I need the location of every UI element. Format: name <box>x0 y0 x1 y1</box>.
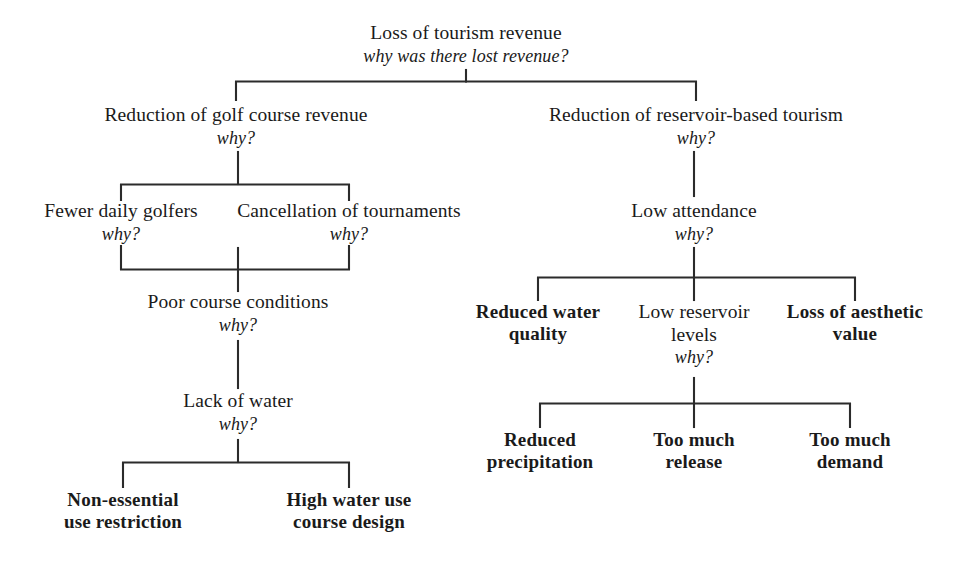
node-high-water-use-course-design: High water use course design <box>242 489 457 533</box>
connector-top-bracket <box>236 82 696 101</box>
node-high-water-use-course-design-line1: High water use <box>242 489 457 511</box>
node-loss-of-aesthetic-value-line2: value <box>760 323 950 345</box>
node-low-reservoir-levels-why: why? <box>609 347 779 368</box>
node-golf-revenue: Reduction of golf course revenue why? <box>36 104 436 148</box>
node-root: Loss of tourism revenue why was there lo… <box>276 22 656 66</box>
node-fewer-golfers-label: Fewer daily golfers <box>11 200 231 223</box>
node-cancelled-tournaments-why: why? <box>199 224 499 245</box>
node-reduced-water-quality-line2: quality <box>443 323 633 345</box>
node-fewer-golfers-why: why? <box>11 224 231 245</box>
node-too-much-release-line2: release <box>609 451 779 473</box>
node-lack-of-water-label: Lack of water <box>118 390 358 413</box>
node-reservoir-tourism: Reduction of reservoir-based tourism why… <box>476 104 916 148</box>
node-reduced-water-quality-line1: Reduced water <box>443 301 633 323</box>
node-root-label: Loss of tourism revenue <box>276 22 656 45</box>
node-non-essential-use-restriction-line1: Non-essential <box>16 489 231 511</box>
connector-attendance-bracket <box>538 278 855 301</box>
node-too-much-demand: Too much demand <box>765 429 935 473</box>
node-too-much-demand-line1: Too much <box>765 429 935 451</box>
node-root-why: why was there lost revenue? <box>276 46 656 67</box>
node-golf-revenue-label: Reduction of golf course revenue <box>36 104 436 127</box>
connector-golf-rejoin-left <box>121 246 349 270</box>
node-low-reservoir-levels: Low reservoir levels why? <box>609 301 779 368</box>
node-golf-revenue-why: why? <box>36 128 436 149</box>
node-non-essential-use-restriction: Non-essential use restriction <box>16 489 231 533</box>
node-reservoir-tourism-label: Reduction of reservoir-based tourism <box>476 104 916 127</box>
connector-golf-bracket <box>121 185 349 201</box>
connector-levels-bracket <box>540 404 850 428</box>
node-reservoir-tourism-why: why? <box>476 128 916 149</box>
node-reduced-water-quality: Reduced water quality <box>443 301 633 345</box>
node-fewer-golfers: Fewer daily golfers why? <box>11 200 231 244</box>
node-low-attendance-why: why? <box>579 224 809 245</box>
node-loss-of-aesthetic-value: Loss of aesthetic value <box>760 301 950 345</box>
node-non-essential-use-restriction-line2: use restriction <box>16 511 231 533</box>
node-cancelled-tournaments-label: Cancellation of tournaments <box>199 200 499 223</box>
node-too-much-demand-line2: demand <box>765 451 935 473</box>
connector-lack-bracket <box>123 463 349 488</box>
node-lack-of-water: Lack of water why? <box>118 390 358 434</box>
node-poor-course-conditions-why: why? <box>88 315 388 336</box>
node-too-much-release-line1: Too much <box>609 429 779 451</box>
node-low-attendance-label: Low attendance <box>579 200 809 223</box>
node-loss-of-aesthetic-value-line1: Loss of aesthetic <box>760 301 950 323</box>
node-high-water-use-course-design-line2: course design <box>242 511 457 533</box>
node-low-attendance: Low attendance why? <box>579 200 809 244</box>
node-cancelled-tournaments: Cancellation of tournaments why? <box>199 200 499 244</box>
node-lack-of-water-why: why? <box>118 414 358 435</box>
node-poor-course-conditions-label: Poor course conditions <box>88 291 388 314</box>
node-low-reservoir-levels-line2: levels <box>609 324 779 347</box>
node-low-reservoir-levels-line1: Low reservoir <box>609 301 779 324</box>
node-poor-course-conditions: Poor course conditions why? <box>88 291 388 335</box>
node-too-much-release: Too much release <box>609 429 779 473</box>
why-tree-diagram: Loss of tourism revenue why was there lo… <box>0 0 961 563</box>
connector-lines <box>0 0 961 563</box>
